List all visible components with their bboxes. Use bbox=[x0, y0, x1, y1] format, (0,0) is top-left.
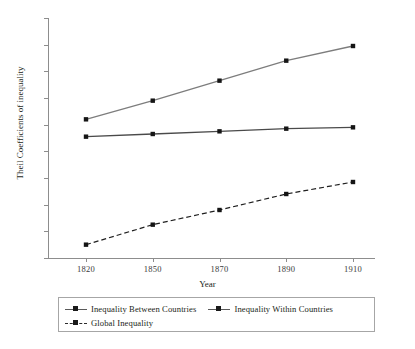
series-line bbox=[86, 46, 353, 119]
data-point-marker bbox=[351, 180, 355, 184]
legend-item-global-inequality[interactable]: Global Inequality bbox=[65, 318, 153, 328]
x-axis-tick-mark bbox=[353, 258, 354, 262]
legend: Inequality Between Countries Inequality … bbox=[58, 297, 375, 332]
data-point-marker bbox=[217, 78, 221, 82]
x-axis-tick-mark bbox=[153, 258, 154, 262]
legend-label-within: Inequality Within Countries bbox=[234, 304, 333, 314]
legend-marker-icon-between bbox=[65, 305, 87, 314]
data-point-marker bbox=[151, 98, 155, 102]
legend-marker-icon-global bbox=[65, 319, 87, 328]
legend-row-1: Inequality Between Countries Inequality … bbox=[65, 302, 368, 316]
data-point-marker bbox=[284, 58, 288, 62]
data-point-marker bbox=[151, 222, 155, 226]
x-axis-tick-label: 1910 bbox=[344, 264, 362, 274]
legend-label-global: Global Inequality bbox=[91, 318, 153, 328]
data-point-marker bbox=[217, 208, 221, 212]
x-axis-tick-mark bbox=[286, 258, 287, 262]
legend-item-inequality-within-countries[interactable]: Inequality Within Countries bbox=[208, 304, 333, 314]
series-3 bbox=[84, 180, 355, 247]
figure-container: 00.10.20.30.40.50.60.70.80.9 18201850187… bbox=[0, 0, 415, 349]
series-line bbox=[86, 182, 353, 245]
x-axis-tick-label: 1870 bbox=[211, 264, 229, 274]
x-axis-tick-label: 1850 bbox=[144, 264, 162, 274]
data-point-marker bbox=[284, 192, 288, 196]
y-axis-title: Theil Coefficients of inequality bbox=[15, 13, 25, 233]
series-line bbox=[86, 127, 353, 136]
x-axis-tick-mark bbox=[86, 258, 87, 262]
data-point-marker bbox=[351, 125, 355, 129]
x-axis-title: Year bbox=[0, 279, 415, 289]
legend-row-2: Global Inequality bbox=[65, 316, 368, 330]
x-axis-line bbox=[48, 258, 375, 259]
series-2 bbox=[84, 125, 355, 139]
x-axis-tick-label: 1890 bbox=[277, 264, 295, 274]
x-axis-tick-label: 1820 bbox=[77, 264, 95, 274]
legend-marker-icon-within bbox=[208, 305, 230, 314]
legend-label-between: Inequality Between Countries bbox=[91, 304, 196, 314]
data-point-marker bbox=[84, 134, 88, 138]
x-axis-tick-mark bbox=[220, 258, 221, 262]
data-point-marker bbox=[151, 132, 155, 136]
data-point-marker bbox=[217, 129, 221, 133]
data-point-marker bbox=[84, 117, 88, 121]
data-point-marker bbox=[284, 126, 288, 130]
data-point-marker bbox=[84, 242, 88, 246]
series-1 bbox=[84, 44, 355, 122]
legend-item-inequality-between-countries[interactable]: Inequality Between Countries bbox=[65, 304, 196, 314]
y-axis-line bbox=[48, 18, 49, 259]
data-point-marker bbox=[351, 44, 355, 48]
